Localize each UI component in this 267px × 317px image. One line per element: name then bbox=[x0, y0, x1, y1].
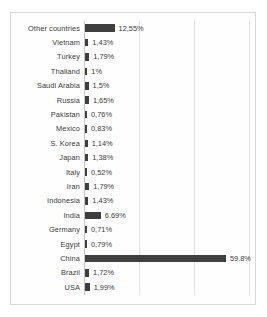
category-label: Germany bbox=[11, 225, 85, 234]
bar[interactable] bbox=[85, 39, 88, 47]
category-label: Turkey bbox=[11, 52, 85, 61]
bar[interactable] bbox=[85, 197, 88, 205]
bar-track: 1,14% bbox=[85, 136, 255, 150]
bar-track: 1,79% bbox=[85, 50, 255, 64]
category-label: Egypt bbox=[11, 240, 85, 249]
bar[interactable] bbox=[85, 255, 226, 263]
value-label: 0,76% bbox=[91, 110, 112, 119]
bar-track: 1,79% bbox=[85, 179, 255, 193]
bar[interactable] bbox=[85, 183, 89, 191]
category-label: Russia bbox=[11, 96, 85, 105]
value-label: 1,79% bbox=[93, 52, 114, 61]
bar-row: Mexico0,83% bbox=[11, 122, 255, 136]
bar[interactable] bbox=[85, 140, 88, 148]
bar-row: USA1,99% bbox=[11, 280, 255, 294]
category-label: Japan bbox=[11, 153, 85, 162]
bar-row: Egypt0,79% bbox=[11, 237, 255, 251]
category-label: China bbox=[11, 254, 85, 263]
bar[interactable] bbox=[85, 168, 87, 176]
category-label: Mexico bbox=[11, 124, 85, 133]
bar-track: 1,99% bbox=[85, 280, 255, 294]
bar[interactable] bbox=[85, 154, 88, 162]
bar[interactable] bbox=[85, 111, 87, 119]
plot-area: Other countries12,55%Vietnam1,43%Turkey1… bbox=[11, 13, 255, 304]
bar-track: 1% bbox=[85, 64, 255, 78]
bar-track: 12,55% bbox=[85, 21, 255, 35]
category-label: India bbox=[11, 211, 85, 220]
bar[interactable] bbox=[85, 269, 89, 277]
value-label: 12,55% bbox=[119, 24, 144, 33]
bar-track: 1,43% bbox=[85, 194, 255, 208]
value-label: 1,14% bbox=[92, 139, 113, 148]
bar-track: 6.69% bbox=[85, 208, 255, 222]
value-label: 0,71% bbox=[91, 225, 112, 234]
bar-track: 1,65% bbox=[85, 93, 255, 107]
category-label: USA bbox=[11, 283, 85, 292]
category-label: Vietnam bbox=[11, 38, 85, 47]
bar[interactable] bbox=[85, 24, 115, 32]
bar[interactable] bbox=[85, 82, 89, 90]
bar-track: 0,71% bbox=[85, 222, 255, 236]
chart-frame: Other countries12,55%Vietnam1,43%Turkey1… bbox=[10, 12, 256, 305]
bar-track: 1,38% bbox=[85, 151, 255, 165]
bar-rows: Other countries12,55%Vietnam1,43%Turkey1… bbox=[11, 21, 255, 294]
category-label: Indonesia bbox=[11, 196, 85, 205]
bar-row: Saudi Arabia1,5% bbox=[11, 79, 255, 93]
bar-track: 1,43% bbox=[85, 35, 255, 49]
bar[interactable] bbox=[85, 240, 87, 248]
bar-row: Brazil1,72% bbox=[11, 266, 255, 280]
bar-row: Germany0,71% bbox=[11, 222, 255, 236]
bar[interactable] bbox=[85, 283, 90, 291]
value-label: 6.69% bbox=[105, 211, 126, 220]
bar[interactable] bbox=[85, 96, 89, 104]
bar-row: Pakistan0,76% bbox=[11, 107, 255, 121]
bar-track: 1,5% bbox=[85, 79, 255, 93]
bar-track: 0,52% bbox=[85, 165, 255, 179]
value-label: 0,79% bbox=[91, 240, 112, 249]
bar-track: 0,83% bbox=[85, 122, 255, 136]
category-label: S. Korea bbox=[11, 139, 85, 148]
bar[interactable] bbox=[85, 212, 101, 220]
bar[interactable] bbox=[85, 226, 87, 234]
category-label: Brazil bbox=[11, 268, 85, 277]
value-label: 1,38% bbox=[92, 153, 113, 162]
bar-track: 1,72% bbox=[85, 266, 255, 280]
value-label: 1,72% bbox=[93, 268, 114, 277]
bar-row: Iran1,79% bbox=[11, 179, 255, 193]
bar-track: 0,76% bbox=[85, 107, 255, 121]
category-label: Thailand bbox=[11, 67, 85, 76]
category-label: Saudi Arabia bbox=[11, 81, 85, 90]
bar-track: 0,79% bbox=[85, 237, 255, 251]
bar-row: Russia1,65% bbox=[11, 93, 255, 107]
bar-track: 59.8% bbox=[85, 251, 255, 265]
bar-row: Turkey1,79% bbox=[11, 50, 255, 64]
bar-row: Other countries12,55% bbox=[11, 21, 255, 35]
bar[interactable] bbox=[85, 53, 89, 61]
value-label: 1,5% bbox=[93, 81, 110, 90]
bar[interactable] bbox=[85, 125, 87, 133]
value-label: 59.8% bbox=[230, 254, 251, 263]
value-label: 1% bbox=[91, 67, 102, 76]
value-label: 1,79% bbox=[93, 182, 114, 191]
value-label: 1,43% bbox=[92, 196, 113, 205]
category-label: Pakistan bbox=[11, 110, 85, 119]
value-label: 1,99% bbox=[94, 283, 115, 292]
category-label: Other countries bbox=[11, 24, 85, 33]
category-label: Italy bbox=[11, 168, 85, 177]
value-label: 0,52% bbox=[91, 168, 112, 177]
bar-row: Indonesia1,43% bbox=[11, 194, 255, 208]
bar-row: S. Korea1,14% bbox=[11, 136, 255, 150]
bar[interactable] bbox=[85, 68, 87, 76]
bar-row: India6.69% bbox=[11, 208, 255, 222]
value-label: 0,83% bbox=[91, 124, 112, 133]
bar-row: Italy0,52% bbox=[11, 165, 255, 179]
bar-row: Japan1,38% bbox=[11, 151, 255, 165]
bar-row: China59.8% bbox=[11, 251, 255, 265]
value-label: 1,43% bbox=[92, 38, 113, 47]
category-label: Iran bbox=[11, 182, 85, 191]
value-label: 1,65% bbox=[93, 96, 114, 105]
bar-row: Vietnam1,43% bbox=[11, 35, 255, 49]
bar-row: Thailand1% bbox=[11, 64, 255, 78]
